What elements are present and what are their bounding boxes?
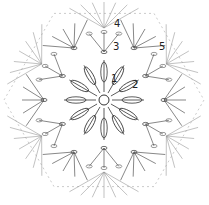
crochet-diagram: 1 2 3 4 5	[0, 0, 209, 205]
round-label-3: 3	[113, 42, 119, 52]
round-label-4: 4	[114, 19, 120, 29]
round-label-2: 2	[132, 80, 138, 90]
hexagon-chart	[0, 0, 209, 205]
round-label-1: 1	[111, 74, 117, 84]
round-label-5: 5	[159, 42, 165, 52]
